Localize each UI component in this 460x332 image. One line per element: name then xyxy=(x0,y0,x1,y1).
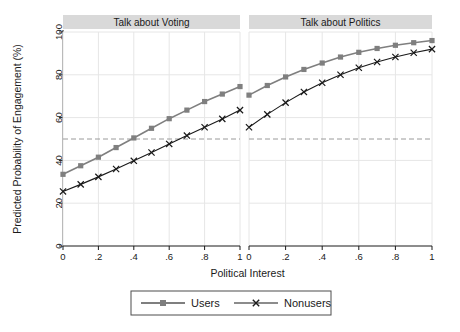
x-axis-tick-label: 0 xyxy=(246,251,251,262)
data-point-marker xyxy=(301,67,306,72)
data-point-marker xyxy=(60,172,65,177)
x-axis-tick-label: .6 xyxy=(165,251,173,262)
panel-title: Talk about Voting xyxy=(113,17,189,28)
data-point-marker xyxy=(78,163,83,168)
x-axis-tick-label: .2 xyxy=(282,251,290,262)
panel-2: Talk about Politics0.2.4.6.81 xyxy=(246,15,435,262)
data-point-marker xyxy=(167,116,172,121)
data-point-marker xyxy=(246,93,251,98)
x-axis-tick-label: 1 xyxy=(429,251,434,262)
data-point-marker xyxy=(411,40,416,45)
x-axis-tick-label: .4 xyxy=(318,251,326,262)
data-point-marker xyxy=(338,54,343,59)
x-axis-tick-label: .8 xyxy=(391,251,399,262)
legend-label: Nonusers xyxy=(284,297,332,309)
data-point-marker xyxy=(131,135,136,140)
legend-label: Users xyxy=(191,297,220,309)
x-axis-tick-label: .4 xyxy=(130,251,138,262)
data-point-marker xyxy=(393,43,398,48)
data-point-marker xyxy=(265,83,270,88)
chart-legend: UsersNonusers xyxy=(131,291,332,315)
x-axis-tick-label: 0 xyxy=(60,251,65,262)
panel-title: Talk about Politics xyxy=(300,17,380,28)
x-axis-tick-label: .2 xyxy=(94,251,102,262)
data-point-marker xyxy=(184,108,189,113)
x-axis-tick-label: .8 xyxy=(201,251,209,262)
data-point-marker xyxy=(96,155,101,160)
x-axis-tick-label: .6 xyxy=(355,251,363,262)
data-point-marker xyxy=(429,38,434,43)
y-axis-label: Predicted Probability of Engagement (%) xyxy=(11,44,23,234)
data-point-marker xyxy=(375,46,380,51)
data-point-marker xyxy=(356,50,361,55)
data-point-marker xyxy=(202,99,207,104)
data-point-marker xyxy=(320,60,325,65)
data-point-marker xyxy=(149,126,154,131)
panel-1: Talk about Voting0.2.4.6.81 xyxy=(60,15,243,262)
data-point-marker xyxy=(283,74,288,79)
x-axis-label: Political Interest xyxy=(210,267,284,279)
x-axis-tick-label: 1 xyxy=(237,251,242,262)
chart-figure: Predicted Probability of Engagement (%)0… xyxy=(0,0,460,332)
data-point-marker xyxy=(114,145,119,150)
legend-marker-square xyxy=(160,300,166,306)
chart-svg: Predicted Probability of Engagement (%)0… xyxy=(0,0,460,332)
data-point-marker xyxy=(220,91,225,96)
data-point-marker xyxy=(237,84,242,89)
